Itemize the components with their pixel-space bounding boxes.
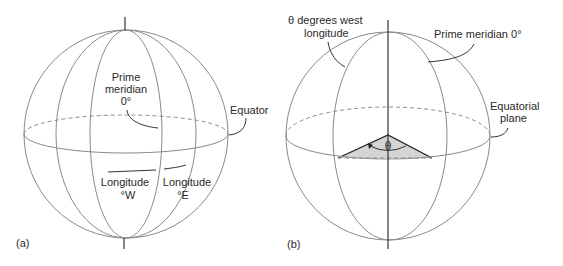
prime-meridian-leader bbox=[127, 110, 158, 128]
prime-meridian-leader-b bbox=[428, 44, 474, 62]
globe-diagram: Prime meridian 0° Equator Longitude °W L… bbox=[0, 0, 563, 266]
prime-meridian-label-3: 0° bbox=[121, 95, 132, 107]
prime-meridian-label-2: meridian bbox=[105, 83, 147, 95]
meridian-inner-a bbox=[90, 30, 162, 238]
longitude-west-label-1: Longitude bbox=[101, 176, 149, 188]
prime-meridian-label-b: Prime meridian 0° bbox=[434, 28, 522, 40]
equator-label: Equator bbox=[230, 104, 269, 116]
sphere-outline-a bbox=[24, 30, 228, 238]
meridian-outer-a bbox=[56, 30, 196, 238]
longitude-east-label-2: °E bbox=[177, 189, 189, 201]
theta-west-label-2: longitude bbox=[304, 27, 349, 39]
prime-meridian-label-1: Prime bbox=[112, 71, 141, 83]
figure-b: θ θ degrees west longitude Prime meridia… bbox=[286, 14, 540, 250]
panel-label-b: (b) bbox=[287, 238, 300, 250]
panel-label-a: (a) bbox=[16, 237, 29, 249]
theta-symbol: θ bbox=[385, 140, 392, 153]
equator-back-a bbox=[24, 115, 228, 134]
longitude-east-label-1: Longitude bbox=[163, 176, 211, 188]
equator-front-a bbox=[24, 134, 228, 153]
equator-leader bbox=[229, 118, 246, 135]
longitude-east-arrow bbox=[164, 165, 186, 169]
theta-west-label-1: θ degrees west bbox=[288, 14, 363, 26]
longitude-west-label-2: °W bbox=[121, 189, 136, 201]
equatorial-plane-leader bbox=[491, 128, 508, 137]
longitude-west-arrow bbox=[108, 170, 156, 172]
figure-a: Prime meridian 0° Equator Longitude °W L… bbox=[16, 17, 269, 249]
equatorial-plane-label-1: Equatorial bbox=[490, 100, 540, 112]
equatorial-plane-label-2: plane bbox=[500, 112, 527, 124]
